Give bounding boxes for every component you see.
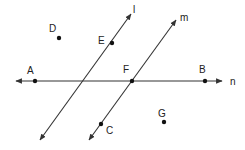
point-D-label: D xyxy=(49,23,56,34)
point-C-label: C xyxy=(106,125,113,136)
line-m-label: m xyxy=(180,12,188,23)
point-G: G xyxy=(158,108,166,124)
point-E-label: E xyxy=(98,35,105,46)
point-F-dot xyxy=(130,79,134,83)
line-l-label: l xyxy=(133,4,135,15)
point-B-dot xyxy=(203,79,207,83)
point-F-label: F xyxy=(123,64,129,75)
point-B: B xyxy=(199,64,207,83)
point-F: F xyxy=(123,64,134,83)
point-E-dot xyxy=(110,41,114,45)
point-G-label: G xyxy=(158,108,166,119)
point-A-dot xyxy=(33,79,37,83)
point-A-label: A xyxy=(27,65,34,76)
point-C: C xyxy=(99,122,113,136)
diagram-svg: lmn ABCDEFG xyxy=(0,0,245,150)
point-D-dot xyxy=(57,36,61,40)
point-G-dot xyxy=(162,120,166,124)
geometry-diagram: lmn ABCDEFG xyxy=(0,0,245,150)
points-layer: ABCDEFG xyxy=(27,23,207,136)
line-n: n xyxy=(16,76,236,87)
point-C-dot xyxy=(99,122,103,126)
point-B-label: B xyxy=(199,64,206,75)
line-n-label: n xyxy=(230,76,236,87)
line-m: m xyxy=(89,12,188,140)
point-D: D xyxy=(49,23,61,40)
